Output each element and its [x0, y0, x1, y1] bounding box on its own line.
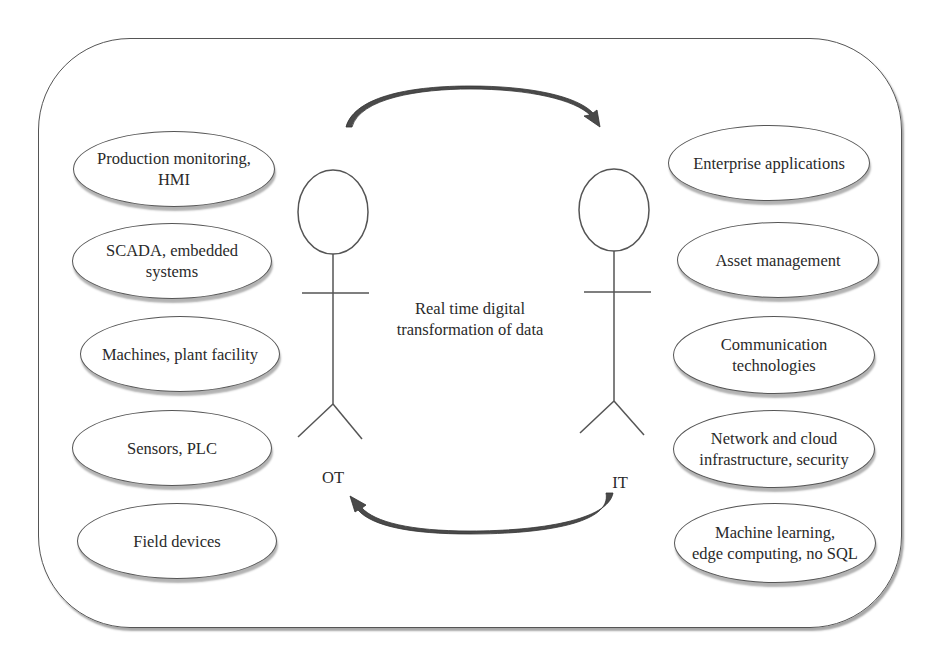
center-caption: Real time digital transformation of data: [370, 298, 570, 340]
it-item-label: Asset management: [715, 250, 840, 271]
it-actor-icon: [579, 169, 651, 435]
it-item-label: Enterprise applications: [693, 153, 845, 174]
ot-item-machines: Machines, plant facility: [80, 316, 280, 392]
ot-item-label: Production monitoring, HMI: [97, 148, 251, 190]
ot-actor-label: OT: [313, 467, 353, 488]
it-actor-label: IT: [600, 472, 640, 493]
it-item-asset-management: Asset management: [677, 222, 879, 298]
ot-item-scada: SCADA, embedded systems: [72, 223, 272, 299]
it-item-enterprise-applications: Enterprise applications: [668, 125, 870, 201]
ot-item-production-monitoring: Production monitoring, HMI: [73, 131, 275, 207]
ot-item-label: SCADA, embedded systems: [106, 240, 238, 282]
arrow-ot-to-it-icon: [346, 86, 600, 127]
arrow-it-to-ot-icon: [350, 493, 613, 534]
ot-item-label: Machines, plant facility: [102, 344, 258, 365]
it-item-label: Machine learning, edge computing, no SQL: [692, 522, 858, 564]
ot-item-field-devices: Field devices: [77, 503, 277, 579]
ot-it-convergence-diagram: Production monitoring, HMI SCADA, embedd…: [0, 0, 943, 665]
it-item-label: Network and cloud infrastructure, securi…: [699, 428, 848, 470]
it-item-network-cloud: Network and cloud infrastructure, securi…: [673, 410, 875, 488]
ot-item-sensors: Sensors, PLC: [72, 410, 272, 486]
it-item-machine-learning: Machine learning, edge computing, no SQL: [674, 503, 876, 583]
it-item-communication-technologies: Communication technologies: [673, 316, 875, 394]
it-item-label: Communication technologies: [721, 334, 827, 376]
ot-actor-icon: [298, 170, 369, 439]
ot-item-label: Sensors, PLC: [127, 438, 217, 459]
ot-item-label: Field devices: [133, 531, 221, 552]
